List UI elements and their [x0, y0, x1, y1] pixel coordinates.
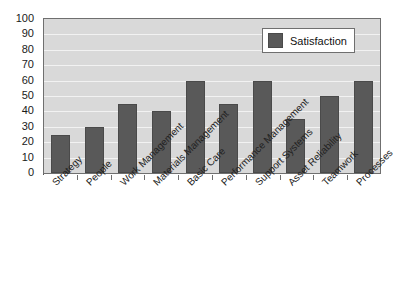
- bar-slot: [44, 19, 78, 173]
- y-tick-label-50: 50: [22, 90, 34, 101]
- bar-processes: [354, 81, 373, 173]
- bar-chart-figure: 1009080706050403020100 StrategyPeopleWor…: [0, 0, 399, 300]
- y-tick-label-0: 0: [28, 167, 34, 178]
- y-tick-label-20: 20: [22, 136, 34, 147]
- legend-swatch-satisfaction: [268, 33, 283, 48]
- y-tick-label-100: 100: [16, 13, 34, 24]
- y-tick-label-40: 40: [22, 105, 34, 116]
- bar-basic-care: [186, 81, 205, 173]
- legend-label-satisfaction: Satisfaction: [290, 35, 347, 47]
- y-tick-label-80: 80: [22, 43, 34, 54]
- bar-slot: [78, 19, 112, 173]
- y-tick-label-70: 70: [22, 59, 34, 70]
- y-tick-label-60: 60: [22, 74, 34, 85]
- y-tick-label-90: 90: [22, 28, 34, 39]
- bar-slot: [111, 19, 145, 173]
- bar-support-systems: [253, 81, 272, 173]
- y-tick-label-10: 10: [22, 151, 34, 162]
- chart-legend: Satisfaction: [262, 28, 355, 53]
- x-axis: StrategyPeopleWork ManagementMaterials M…: [43, 180, 381, 295]
- y-tick-label-30: 30: [22, 120, 34, 131]
- y-axis: 1009080706050403020100: [0, 18, 38, 174]
